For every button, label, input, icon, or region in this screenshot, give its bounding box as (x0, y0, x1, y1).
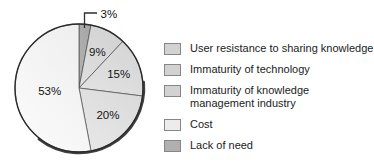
legend-label: Immaturity of knowledge management indus… (190, 84, 309, 110)
legend-item: Cost (164, 118, 373, 131)
knowledge-management-obstacles-pie-figure: 3%9%15%20%53% User resistance to sharing… (0, 0, 374, 167)
pie-slice-label: 20% (96, 109, 119, 121)
legend-label: User resistance to sharing knowledge (190, 42, 373, 55)
pie-slice-label: 53% (38, 85, 61, 97)
legend-item: User resistance to sharing knowledge (164, 42, 373, 55)
legend-swatch (164, 119, 181, 131)
legend-item: Lack of need (164, 139, 373, 152)
pie-slice-callout-label: 3% (101, 8, 118, 20)
legend-label: Cost (190, 118, 213, 131)
pie-slice-label: 9% (89, 46, 106, 58)
legend-label: Immaturity of technology (190, 63, 310, 76)
legend-label: Lack of need (190, 139, 253, 152)
legend-swatch (164, 85, 181, 97)
legend-swatch (164, 140, 181, 152)
legend-swatch (164, 64, 181, 76)
legend: User resistance to sharing knowledgeImma… (164, 42, 373, 160)
legend-item: Immaturity of knowledge management indus… (164, 84, 373, 110)
legend-swatch (164, 43, 181, 55)
pie-slice-label: 15% (107, 68, 130, 80)
legend-item: Immaturity of technology (164, 63, 373, 76)
